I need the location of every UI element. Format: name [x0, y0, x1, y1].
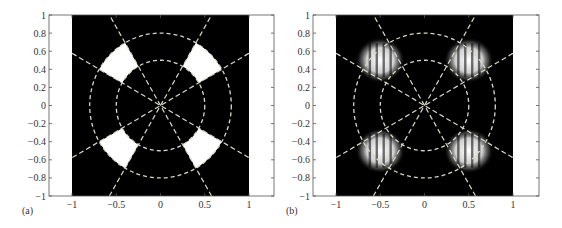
intensity-lobe — [355, 38, 405, 83]
y-tick-label: 0.6 — [34, 46, 47, 57]
y-tick-label: 0 — [305, 100, 310, 111]
x-tick-label: −0.5 — [371, 199, 389, 210]
panel-label: (a) — [22, 205, 33, 217]
y-tick-label: 0.2 — [298, 82, 311, 93]
y-tick-label: 0.8 — [34, 28, 47, 39]
y-tick-label: −0.2 — [292, 118, 310, 129]
y-tick-label: 0.2 — [34, 82, 47, 93]
y-tick-label: −0.6 — [292, 154, 310, 165]
y-tick-label: 0.4 — [34, 64, 47, 75]
y-tick-label: −1 — [299, 191, 310, 202]
figure: 10.80.60.40.20−0.2−0.4−0.6−0.8−1−1−0.500… — [0, 0, 562, 228]
y-tick-label: −0.8 — [28, 172, 46, 183]
panel-a: 10.80.60.40.20−0.2−0.4−0.6−0.8−1−1−0.500… — [22, 0, 283, 228]
y-tick-label: 0.4 — [298, 64, 311, 75]
x-tick-label: 0 — [158, 199, 163, 210]
y-tick-label: −0.4 — [292, 136, 310, 147]
x-tick-label: 0.5 — [199, 199, 212, 210]
x-tick-label: −0.5 — [107, 199, 125, 210]
y-tick-label: −0.6 — [28, 154, 46, 165]
panel-label: (b) — [286, 205, 298, 217]
y-tick-label: 0.6 — [298, 46, 311, 57]
y-tick-label: 0.8 — [298, 28, 311, 39]
intensity-lobe — [444, 38, 494, 83]
x-tick-label: 0 — [422, 199, 427, 210]
y-tick-label: −1 — [35, 191, 46, 202]
y-tick-label: 0 — [41, 100, 46, 111]
panel-b: 10.80.60.40.20−0.2−0.4−0.6−0.8−1−1−0.500… — [286, 0, 547, 228]
y-tick-label: 1 — [41, 10, 46, 21]
y-tick-label: 1 — [305, 10, 310, 21]
x-tick-label: −1 — [331, 199, 342, 210]
x-tick-label: 1 — [247, 199, 252, 210]
intensity-lobe — [355, 128, 405, 173]
y-tick-label: −0.2 — [28, 118, 46, 129]
x-tick-label: −1 — [67, 199, 78, 210]
y-tick-label: −0.4 — [28, 136, 46, 147]
x-tick-label: 0.5 — [463, 199, 476, 210]
y-tick-label: −0.8 — [292, 172, 310, 183]
x-tick-label: 1 — [511, 199, 516, 210]
intensity-lobe — [444, 128, 494, 173]
